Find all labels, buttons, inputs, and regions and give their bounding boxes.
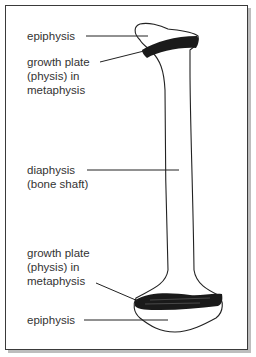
bone-outline bbox=[134, 23, 222, 332]
label-growth-plate-bottom: growth plate (physis) in metaphysis bbox=[27, 246, 90, 288]
leader-growth-plate-bottom bbox=[96, 283, 138, 301]
label-line: (physis) in bbox=[27, 260, 90, 274]
label-line: growth plate bbox=[27, 55, 90, 69]
label-line: growth plate bbox=[27, 246, 90, 260]
label-line: metaphysis bbox=[27, 83, 90, 97]
label-line: (physis) in bbox=[27, 69, 90, 83]
label-epiphysis-top: epiphysis bbox=[27, 29, 75, 43]
label-growth-plate-top: growth plate (physis) in metaphysis bbox=[27, 55, 90, 97]
label-line: metaphysis bbox=[27, 274, 90, 288]
growth-plate-bottom bbox=[135, 293, 222, 310]
label-diaphysis: diaphysis (bone shaft) bbox=[27, 163, 88, 191]
leader-growth-plate-top bbox=[100, 51, 144, 62]
label-line: (bone shaft) bbox=[27, 177, 88, 191]
label-line: diaphysis bbox=[27, 163, 88, 177]
label-epiphysis-bottom: epiphysis bbox=[27, 313, 75, 327]
